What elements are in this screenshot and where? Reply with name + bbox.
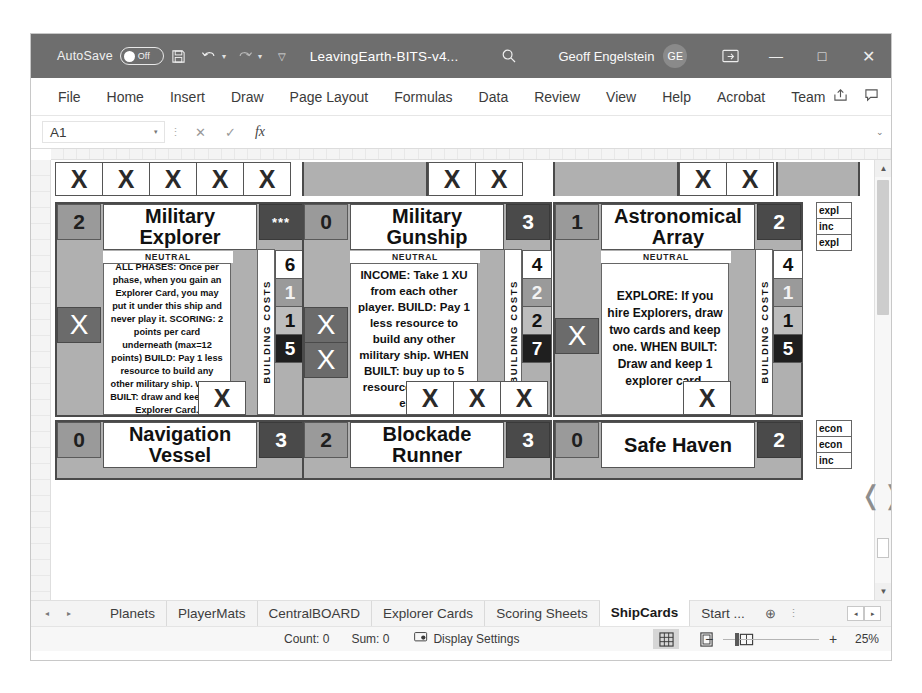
x-cell[interactable]: X <box>198 381 246 415</box>
row-header-cell[interactable] <box>31 416 50 432</box>
row-header-cell[interactable] <box>31 544 50 560</box>
column-header-cell[interactable] <box>235 149 248 159</box>
cancel-formula-button[interactable]: ✕ <box>185 125 215 140</box>
zoom-out-button[interactable]: − <box>703 631 715 647</box>
column-header-cell[interactable] <box>550 149 563 159</box>
column-header-cell[interactable] <box>327 149 340 159</box>
sheet-tab-playermats[interactable]: PlayerMats <box>167 601 258 627</box>
column-header-cell[interactable] <box>602 149 615 159</box>
normal-view-icon[interactable] <box>653 629 679 649</box>
zoom-slider[interactable] <box>723 639 819 640</box>
scroll-down-icon[interactable]: ▼ <box>875 583 891 600</box>
x-cell[interactable]: X <box>726 162 774 196</box>
column-header-cell[interactable] <box>524 149 537 159</box>
ship-card-safe-haven[interactable]: 0 Safe Haven 2 <box>553 420 803 480</box>
column-header-cell[interactable] <box>392 149 405 159</box>
ribbon-tab-home[interactable]: Home <box>94 78 157 116</box>
column-header-cell[interactable] <box>156 149 169 159</box>
zoom-slider-thumb[interactable] <box>735 633 739 646</box>
column-header-cell[interactable] <box>314 149 327 159</box>
column-header-cell[interactable] <box>340 149 353 159</box>
column-header-cell[interactable] <box>839 149 852 159</box>
column-header-cell[interactable] <box>865 149 878 159</box>
save-icon[interactable] <box>164 43 194 69</box>
column-header-cell[interactable] <box>458 149 471 159</box>
column-header-cell[interactable] <box>405 149 418 159</box>
column-header-cell[interactable] <box>209 149 222 159</box>
column-header-cell[interactable] <box>760 149 773 159</box>
display-settings-button[interactable]: Display Settings <box>414 632 519 647</box>
expand-formula-bar-icon[interactable]: ⌄ <box>869 127 891 137</box>
tag-cell[interactable]: inc <box>816 218 852 235</box>
formula-input[interactable] <box>275 121 869 143</box>
insert-function-icon[interactable]: fx <box>245 124 275 140</box>
x-cell[interactable]: X <box>55 162 103 196</box>
minimize-button[interactable]: — <box>753 34 799 78</box>
column-header-cell[interactable] <box>51 149 64 159</box>
ribbon-tab-view[interactable]: View <box>593 78 649 116</box>
row-header-cell[interactable] <box>31 384 50 400</box>
column-header-cell[interactable] <box>274 149 287 159</box>
column-header-cell[interactable] <box>852 149 865 159</box>
x-cell[interactable]: X <box>475 162 523 196</box>
column-header-cell[interactable] <box>77 149 90 159</box>
row-header-cell[interactable] <box>31 224 50 240</box>
x-cell[interactable]: X <box>243 162 291 196</box>
x-cell[interactable]: X <box>304 342 348 378</box>
add-sheet-icon[interactable]: ⊕ <box>765 606 776 621</box>
ribbon-tab-acrobat[interactable]: Acrobat <box>704 78 778 116</box>
column-header-cell[interactable] <box>261 149 274 159</box>
x-cell[interactable]: X <box>428 162 476 196</box>
ribbon-tab-team[interactable]: Team <box>778 78 838 116</box>
row-header-cell[interactable] <box>31 336 50 352</box>
x-cell[interactable]: X <box>555 318 599 354</box>
ribbon-tab-help[interactable]: Help <box>649 78 704 116</box>
redo-dropdown-icon[interactable]: ▾ <box>254 52 266 61</box>
ribbon-tab-page-layout[interactable]: Page Layout <box>277 78 382 116</box>
avatar[interactable]: GE <box>663 44 687 68</box>
column-header-cell[interactable] <box>445 149 458 159</box>
row-header-cell[interactable] <box>31 528 50 544</box>
row-header-cell[interactable] <box>31 272 50 288</box>
row-header-cell[interactable] <box>31 208 50 224</box>
user-name[interactable]: Geoff Engelstein <box>558 49 654 64</box>
ship-card-military-explorer[interactable]: 2 Military Explorer *** NEUTRAL X ALL PH… <box>55 202 305 417</box>
column-header-cell[interactable] <box>720 149 733 159</box>
sheet-prev-icon[interactable]: ◂ <box>45 609 49 618</box>
column-header-cell[interactable] <box>169 149 182 159</box>
sheet-more-icon[interactable]: ⋮ <box>788 607 799 620</box>
row-header-cell[interactable] <box>31 192 50 208</box>
x-cell[interactable]: X <box>406 381 454 415</box>
column-header-cell[interactable] <box>130 149 143 159</box>
row-header-cell[interactable] <box>31 496 50 512</box>
sheet-tab-centralboard[interactable]: CentralBOARD <box>258 601 373 627</box>
sheet-tab-planets[interactable]: Planets <box>99 601 167 627</box>
row-header-cell[interactable] <box>31 256 50 272</box>
column-header-cell[interactable] <box>878 149 891 159</box>
tag-cell[interactable]: inc <box>816 452 852 469</box>
x-cell[interactable]: X <box>196 162 244 196</box>
column-header-cell[interactable] <box>287 149 300 159</box>
tab-scroll-left-icon[interactable]: ◂ <box>847 606 864 621</box>
enter-formula-button[interactable]: ✓ <box>215 125 245 140</box>
column-header-cell[interactable] <box>222 149 235 159</box>
x-cell[interactable]: X <box>57 307 101 343</box>
column-header-cell[interactable] <box>379 149 392 159</box>
ribbon-tab-draw[interactable]: Draw <box>218 78 277 116</box>
row-header-cell[interactable] <box>31 160 50 176</box>
zoom-in-button[interactable]: + <box>827 631 839 647</box>
tab-scroll-right-icon[interactable]: ▸ <box>864 606 881 621</box>
sheet-tab-start[interactable]: Start ... <box>690 601 756 627</box>
undo-dropdown-icon[interactable]: ▾ <box>218 52 230 61</box>
row-header-cell[interactable] <box>31 176 50 192</box>
x-cell[interactable]: X <box>149 162 197 196</box>
sheet-cells-area[interactable]: X X X X X X X <box>51 160 891 600</box>
column-header-cell[interactable] <box>773 149 786 159</box>
x-cell[interactable]: X <box>679 162 727 196</box>
column-header-cell[interactable] <box>90 149 103 159</box>
tag-cell[interactable]: expl <box>816 234 852 251</box>
x-cell[interactable]: X <box>683 381 731 415</box>
column-header-cell[interactable] <box>655 149 668 159</box>
row-header-cell[interactable] <box>31 512 50 528</box>
column-header-cell[interactable] <box>734 149 747 159</box>
